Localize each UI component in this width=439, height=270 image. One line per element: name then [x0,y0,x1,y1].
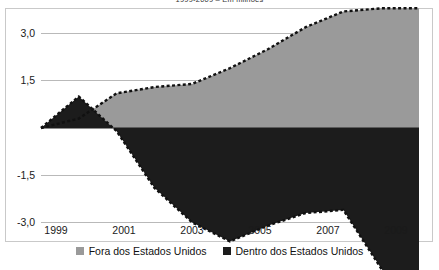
x-tick-2003: 2003 [180,225,203,236]
chart-page: 1999-2009 – Em milhões 3,0 1,5 -1,5 -3,0 [0,0,439,270]
x-tick-2007: 2007 [316,225,339,236]
x-tick-1999: 1999 [44,225,67,236]
chart-legend: Fora dos Estados Unidos Dentro dos Estad… [0,246,439,257]
legend-swatch-icon-fora [76,247,84,255]
y-tick--1-5: -1,5 [17,170,35,181]
x-tick-2001: 2001 [112,225,135,236]
plot-area: 3,0 1,5 -1,5 -3,0 1999 [41,33,419,222]
legend-item-dentro: Dentro dos Estados Unidos [223,246,364,257]
y-tick-3-0: 3,0 [20,28,35,39]
y-tick--3-0: -3,0 [17,217,35,228]
legend-label-fora: Fora dos Estados Unidos [89,246,207,257]
legend-label-dentro: Dentro dos Estados Unidos [236,246,364,257]
x-tick-2005: 2005 [248,225,271,236]
chart-frame: 3,0 1,5 -1,5 -3,0 1999 [5,8,433,242]
x-tick-2009: 2009 [384,225,407,236]
area-chart-svg [41,33,419,222]
y-tick-1-5: 1,5 [20,75,35,86]
legend-swatch-icon-dentro [223,247,231,255]
chart-title: 1999-2009 – Em milhões [0,0,439,4]
legend-item-fora: Fora dos Estados Unidos [76,246,207,257]
